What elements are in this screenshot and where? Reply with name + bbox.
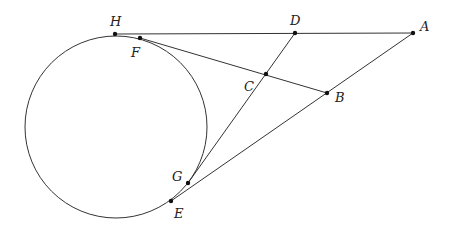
diagram-svg: [0, 0, 450, 234]
circle: [25, 36, 207, 218]
point-e: [169, 199, 173, 203]
segment-dg: [188, 33, 295, 183]
label-g: G: [172, 170, 182, 183]
point-h: [113, 32, 117, 36]
point-f: [138, 36, 142, 40]
label-a: A: [420, 20, 429, 33]
segment-fb: [140, 38, 327, 93]
label-f: F: [131, 46, 140, 59]
label-h: H: [110, 15, 121, 28]
point-d: [293, 31, 297, 35]
point-a: [411, 31, 415, 35]
geometry-diagram: HFDACBGE: [0, 0, 450, 234]
label-c: C: [244, 80, 254, 93]
segment-ha: [115, 33, 413, 34]
label-e: E: [174, 207, 184, 220]
label-b: B: [335, 91, 345, 104]
point-c: [264, 72, 268, 76]
point-b: [325, 91, 329, 95]
label-d: D: [290, 14, 300, 27]
point-g: [186, 181, 190, 185]
